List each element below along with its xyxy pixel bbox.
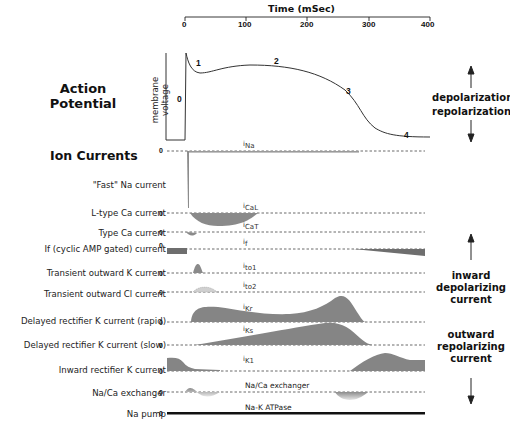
- phase-2: 2: [274, 56, 279, 66]
- svg-text:0: 0: [159, 319, 163, 326]
- trace-ito2: [193, 287, 217, 292]
- svg-text:0: 0: [159, 270, 163, 277]
- trace-ina: [187, 151, 359, 208]
- inward-current-label: inward depolarizing current: [432, 270, 510, 306]
- svg-text:0: 0: [159, 229, 163, 236]
- label-icat-trace: iCaT: [243, 221, 258, 231]
- label-ik1-trace: iK1: [243, 355, 254, 365]
- label-nak-trace: Na-K ATPase: [245, 403, 292, 412]
- zero-labels: 0 0 0 0 0 0 0 0 0 0 0: [159, 147, 163, 417]
- trace-if: [167, 248, 425, 256]
- trace-iks: [194, 323, 374, 345]
- action-potential-trace: [166, 53, 430, 140]
- label-naca-trace: Na/Ca exchanger: [245, 381, 309, 390]
- trace-ik1: [167, 353, 425, 371]
- svg-text:0: 0: [159, 147, 163, 154]
- trace-ikr: [191, 296, 365, 322]
- svg-text:0: 0: [159, 242, 163, 249]
- svg-text:0: 0: [159, 342, 163, 349]
- phase-1: 1: [196, 58, 201, 68]
- label-if-trace: if: [243, 238, 247, 248]
- svg-text:0: 0: [159, 289, 163, 296]
- phase-3: 3: [346, 86, 351, 96]
- svg-text:0: 0: [159, 389, 163, 396]
- trace-ito1: [193, 264, 203, 273]
- label-ical-trace: iCaL: [243, 202, 258, 212]
- label-ito1-trace: ito1: [243, 262, 256, 272]
- label-ito2-trace: ito2: [243, 281, 256, 291]
- svg-text:0: 0: [159, 210, 163, 217]
- repolarization-label: repolarization: [432, 106, 510, 118]
- time-axis: [185, 17, 430, 21]
- label-ikr-trace: iKr: [243, 303, 252, 313]
- phase-0: 0: [177, 94, 182, 104]
- svg-text:0: 0: [159, 410, 163, 417]
- label-ina-trace: iNa: [243, 140, 254, 150]
- depolarization-label: depolarization: [432, 92, 510, 104]
- svg-text:0: 0: [159, 368, 163, 375]
- phase-4: 4: [404, 130, 409, 140]
- trace-icaT: [186, 232, 197, 236]
- outward-current-label: outward repolarizing current: [432, 329, 510, 365]
- trace-nak-atpase: [167, 412, 425, 415]
- label-iks-trace: iKs: [243, 325, 253, 335]
